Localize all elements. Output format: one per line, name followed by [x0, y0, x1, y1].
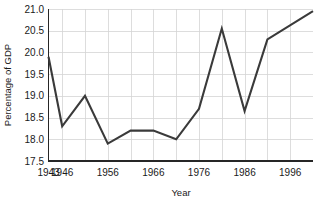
y-axis-tick-label: 18.5 [25, 112, 45, 123]
y-axis-tick-label: 20.0 [25, 47, 45, 58]
y-axis-tick-label: 17.5 [25, 156, 45, 167]
x-axis-tick-label: 1996 [279, 167, 302, 178]
x-axis-tick-label: 1976 [188, 167, 211, 178]
x-axis-tick-label: 1986 [233, 167, 256, 178]
y-axis-tick-label: 19.5 [25, 69, 45, 80]
y-axis-tick-label: 20.5 [25, 25, 45, 36]
x-axis-tick-label: 1966 [142, 167, 165, 178]
y-axis-tick-label: 18.0 [25, 134, 45, 145]
y-axis-title: Percentage of GDP [2, 44, 13, 126]
y-axis-tick-label: 19.0 [25, 90, 45, 101]
x-axis-tick-label: 1946 [51, 167, 74, 178]
x-axis-tick-label: 1956 [97, 167, 120, 178]
y-axis-tick-label: 21.0 [25, 4, 45, 15]
x-axis-title: Year [171, 187, 190, 198]
chart-container: 17.518.018.519.019.520.020.521.0 1943194… [0, 0, 318, 205]
line-chart: 17.518.018.519.019.520.020.521.0 1943194… [0, 0, 318, 205]
